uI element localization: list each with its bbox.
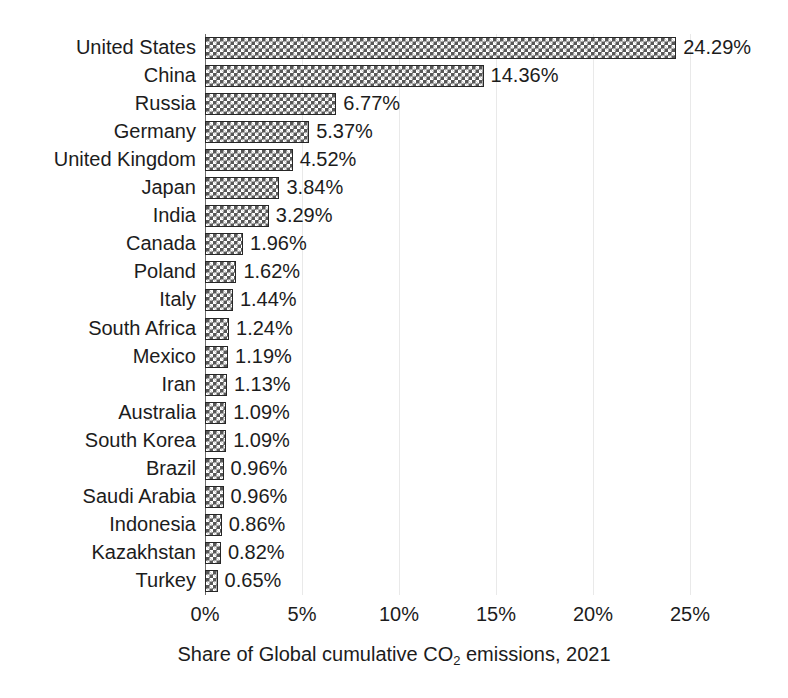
value-label: 1.44% (240, 289, 297, 311)
value-label: 1.24% (236, 318, 293, 340)
value-label: 0.96% (231, 458, 288, 480)
bar (205, 402, 226, 424)
value-label: 14.36% (491, 65, 559, 87)
bar-row: Turkey0.65% (0, 567, 788, 595)
x-tick-label: 0% (191, 601, 220, 627)
bar-row: Germany5.37% (0, 118, 788, 146)
category-label: Mexico (133, 343, 196, 371)
bar-row: Iran1.13% (0, 371, 788, 399)
category-label: Brazil (146, 455, 196, 483)
bar-row: South Africa1.24% (0, 315, 788, 343)
value-label: 3.29% (276, 205, 333, 227)
category-label: China (144, 62, 196, 90)
bar-row: Brazil0.96% (0, 455, 788, 483)
bar-row: Japan3.84% (0, 174, 788, 202)
x-tick-label: 20% (573, 601, 613, 627)
bar-row: United Kingdom4.52% (0, 146, 788, 174)
bar-row: Mexico1.19% (0, 343, 788, 371)
value-label: 0.86% (229, 514, 286, 536)
bar (205, 121, 309, 143)
value-label: 0.82% (228, 542, 285, 564)
bar (205, 458, 224, 480)
bar (205, 177, 279, 199)
bar-row: India3.29% (0, 202, 788, 230)
x-tick-label: 25% (670, 601, 710, 627)
bar (205, 542, 221, 564)
category-label: United Kingdom (54, 146, 196, 174)
value-label: 1.13% (234, 374, 291, 396)
value-label: 5.37% (316, 121, 373, 143)
bar (205, 289, 233, 311)
value-label: 0.65% (225, 570, 282, 592)
value-label: 1.62% (243, 261, 300, 283)
value-label: 3.84% (286, 177, 343, 199)
bar (205, 346, 228, 368)
bar-row: Canada1.96% (0, 230, 788, 258)
bar (205, 261, 236, 283)
x-tick-label: 5% (288, 601, 317, 627)
bar (205, 514, 222, 536)
value-label: 1.09% (233, 402, 290, 424)
bar (205, 93, 336, 115)
value-label: 4.52% (300, 149, 357, 171)
category-label: Poland (134, 258, 196, 286)
category-label: United States (76, 34, 196, 62)
category-label: Turkey (136, 567, 196, 595)
category-label: Germany (114, 118, 196, 146)
category-label: Russia (135, 90, 196, 118)
value-label: 24.29% (683, 37, 751, 59)
x-axis-tick-labels: 0%5%10%15%20%25% (0, 601, 788, 629)
bar-row: Saudi Arabia0.96% (0, 483, 788, 511)
category-label: Saudi Arabia (83, 483, 196, 511)
category-label: Canada (126, 230, 196, 258)
category-label: Iran (162, 371, 196, 399)
bar (205, 37, 676, 59)
category-label: South Korea (85, 427, 196, 455)
bar-row: Australia1.09% (0, 399, 788, 427)
category-label: India (153, 202, 196, 230)
value-label: 1.96% (250, 233, 307, 255)
x-axis-title-after: emissions, 2021 (460, 643, 610, 665)
bar (205, 233, 243, 255)
bar (205, 149, 293, 171)
category-label: Australia (118, 399, 196, 427)
bar (205, 570, 218, 592)
category-label: South Africa (88, 315, 196, 343)
bar-row: South Korea1.09% (0, 427, 788, 455)
category-label: Italy (159, 286, 196, 314)
category-label: Indonesia (109, 511, 196, 539)
bar-rows: United States24.29%China14.36%Russia6.77… (0, 34, 788, 595)
value-label: 1.19% (235, 346, 292, 368)
x-axis-title: Share of Global cumulative CO2 emissions… (0, 640, 788, 671)
bar-row: United States24.29% (0, 34, 788, 62)
bar-chart: United States24.29%China14.36%Russia6.77… (0, 0, 788, 698)
bar (205, 374, 227, 396)
bar-row: Kazakhstan0.82% (0, 539, 788, 567)
bar (205, 65, 484, 87)
x-tick-label: 10% (379, 601, 419, 627)
x-axis-title-before: Share of Global cumulative CO (178, 643, 454, 665)
x-tick-label: 15% (476, 601, 516, 627)
value-label: 6.77% (343, 93, 400, 115)
bar-row: Russia6.77% (0, 90, 788, 118)
bar (205, 205, 269, 227)
value-label: 0.96% (231, 486, 288, 508)
bar-row: Poland1.62% (0, 258, 788, 286)
category-label: Japan (142, 174, 197, 202)
bar (205, 318, 229, 340)
category-label: Kazakhstan (91, 539, 196, 567)
x-axis-title-subscript: 2 (453, 653, 460, 668)
bar (205, 430, 226, 452)
bar-row: China14.36% (0, 62, 788, 90)
value-label: 1.09% (233, 430, 290, 452)
bar-row: Italy1.44% (0, 286, 788, 314)
bar (205, 486, 224, 508)
bar-row: Indonesia0.86% (0, 511, 788, 539)
